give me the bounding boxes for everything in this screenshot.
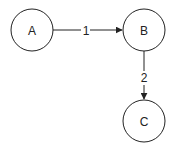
node-a-label: A bbox=[28, 24, 36, 38]
edge-b-c-label: 2 bbox=[141, 71, 148, 85]
node-c-label: C bbox=[140, 115, 149, 129]
node-b: B bbox=[123, 9, 165, 51]
node-b-label: B bbox=[140, 24, 148, 38]
edge-b-c: 2 bbox=[139, 51, 149, 99]
node-c: C bbox=[123, 100, 165, 142]
edge-a-b: 1 bbox=[53, 23, 122, 38]
graph-diagram: A B C 1 2 bbox=[0, 0, 179, 147]
node-a: A bbox=[11, 9, 53, 51]
edge-a-b-label: 1 bbox=[83, 24, 90, 38]
